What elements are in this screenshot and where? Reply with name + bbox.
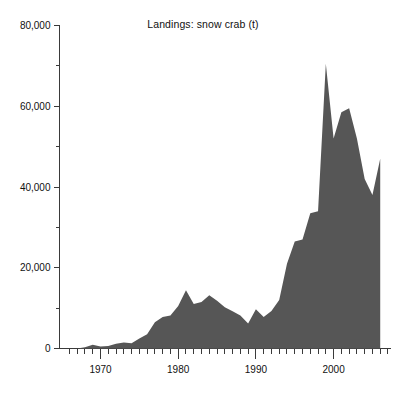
- y-tick-label: 0: [45, 343, 51, 354]
- y-axis: 020,00040,00060,00080,000: [20, 20, 60, 354]
- chart-container: Landings: snow crab (t) 020,00040,00060,…: [0, 0, 406, 394]
- y-tick-label: 20,000: [20, 262, 51, 273]
- area-fill-snow-crab: [69, 64, 380, 349]
- series-snow-crab-landings: [69, 64, 380, 349]
- y-tick-label: 80,000: [20, 20, 51, 31]
- y-tick-label: 60,000: [20, 101, 51, 112]
- x-tick-label: 1980: [167, 364, 190, 375]
- area-chart-plot: 020,00040,00060,00080,000 19701980199020…: [0, 0, 406, 394]
- x-tick-label: 1970: [89, 364, 112, 375]
- x-axis: 1970198019902000: [60, 349, 391, 375]
- y-tick-label: 40,000: [20, 182, 51, 193]
- x-tick-label: 2000: [322, 364, 345, 375]
- x-tick-label: 1990: [245, 364, 268, 375]
